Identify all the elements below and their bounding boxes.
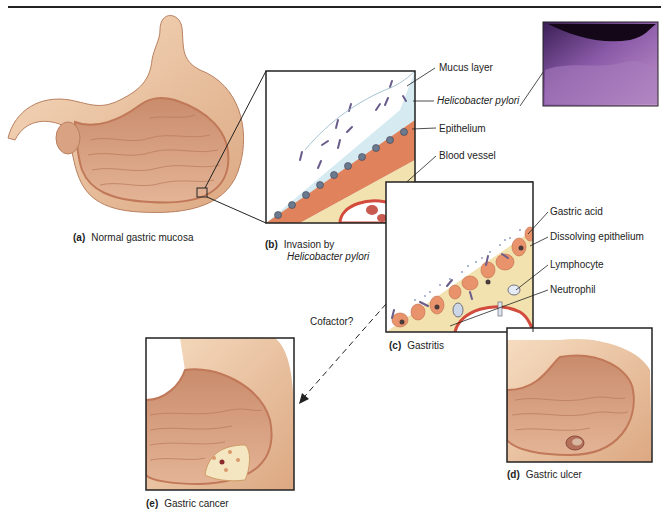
caption-b: (b)Invasion by (265, 239, 334, 250)
label-neutrophil: Neutrophil (550, 284, 596, 295)
micrograph-image (543, 22, 658, 106)
caption-c: (c)Gastritis (389, 340, 444, 351)
label-epithelium: Epithelium (439, 123, 486, 134)
caption-d: (d)Gastric ulcer (507, 469, 582, 480)
caption-b-line2: Helicobacter pylori (287, 251, 369, 262)
panel-c-illustration (386, 182, 535, 332)
caption-e: (e)Gastric cancer (146, 498, 229, 509)
label-helicobacter-pylori: Helicobacter pylori (437, 95, 519, 106)
label-blood-vessel: Blood vessel (439, 150, 496, 161)
zoom-line-a-b-bottom (207, 197, 266, 223)
label-mucus-layer: Mucus layer (439, 62, 493, 73)
label-gastric-acid: Gastric acid (550, 206, 603, 217)
label-lymphocyte: Lymphocyte (550, 259, 604, 270)
gastric-cancer-illustration (146, 338, 294, 490)
label-dissolving-epithelium: Dissolving epithelium (550, 231, 644, 242)
arrowhead-icon (299, 393, 309, 404)
gastric-ulcer-illustration (507, 328, 652, 462)
stomach-normal-illustration (8, 16, 244, 213)
caption-a: (a)Normal gastric mucosa (73, 232, 194, 243)
label-cofactor: Cofactor? (310, 316, 353, 327)
